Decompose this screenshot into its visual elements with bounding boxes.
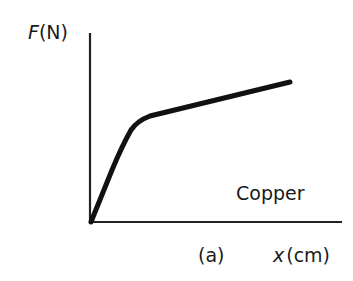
panel-label: (a) — [198, 244, 224, 266]
copper-annotation: Copper — [236, 182, 305, 204]
x-axis-variable: x — [273, 244, 284, 266]
y-axis-variable: F — [28, 21, 39, 43]
x-axis-unit: (cm) — [286, 244, 330, 266]
x-axis-label: x(cm) — [273, 244, 330, 266]
y-axis-unit: (N) — [39, 21, 68, 43]
y-axis-label: F(N) — [28, 21, 68, 43]
